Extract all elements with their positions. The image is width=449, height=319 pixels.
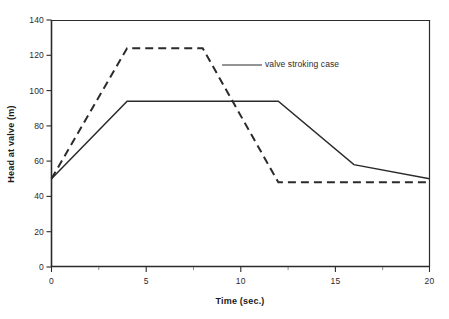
x-tick-label-5: 5: [144, 276, 149, 286]
y-tick-label-60: 60: [22, 156, 44, 166]
y-tick-label-80: 80: [22, 121, 44, 131]
series-line-rapid-closure-case: [52, 48, 430, 182]
axis-lines: [52, 20, 431, 267]
x-tick-label-15: 15: [330, 276, 340, 286]
x-axis-title: Time (sec.): [215, 296, 264, 306]
annotation-label-valve-stroking-case: valve stroking case: [265, 59, 339, 69]
y-tick-label-120: 120: [22, 50, 44, 60]
y-tick-label-100: 100: [22, 86, 44, 96]
y-axis-title: Head at valve (m): [6, 105, 16, 182]
chart-figure: 0 20 40 60 80 100 120 140 0 5 10 15 20 T…: [0, 0, 449, 319]
x-tick-label-0: 0: [49, 276, 54, 286]
x-tick-label-10: 10: [236, 276, 246, 286]
y-tick-label-40: 40: [22, 191, 44, 201]
series-line-valve-stroking-case: [52, 101, 430, 179]
y-tick-label-20: 20: [22, 227, 44, 237]
x-tick-label-20: 20: [425, 276, 435, 286]
y-tick-label-140: 140: [22, 15, 44, 25]
x-axis-ticks: [52, 267, 430, 272]
y-tick-label-0: 0: [22, 262, 44, 272]
chart-canvas: [0, 0, 449, 319]
